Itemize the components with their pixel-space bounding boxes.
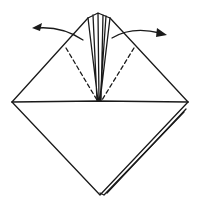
arrowhead-left-icon [32, 23, 42, 31]
paper-outline [12, 102, 188, 195]
origami-diagram [0, 0, 199, 205]
valley-fold-right [102, 48, 134, 100]
arrow-fold-right [112, 30, 160, 38]
left-upper-edge [12, 18, 88, 102]
back-layer-edge-2 [107, 109, 186, 193]
center-flaps [88, 13, 110, 101]
arrowhead-right-icon [156, 28, 167, 37]
arrow-fold-left [37, 28, 83, 40]
